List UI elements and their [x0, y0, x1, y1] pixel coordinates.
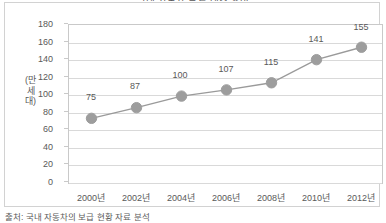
data-point-label: 100	[160, 70, 200, 80]
x-axis-tick-label: 2004년	[158, 191, 204, 204]
chart-frame: (만 세 대) 180 160 140 120 100 80 60 40 20 …	[4, 2, 380, 207]
x-axis-tick-label: 2006년	[203, 191, 249, 204]
y-axis-tick-label: 0	[9, 178, 53, 187]
y-axis-tick-label: 40	[9, 143, 53, 152]
data-point-marker	[311, 54, 321, 64]
data-point-label: 115	[251, 57, 291, 67]
data-point-marker	[356, 42, 366, 52]
data-point-marker	[266, 78, 276, 88]
x-axis-tick-label: 2012년	[338, 191, 384, 204]
data-point-label: 155	[341, 22, 381, 32]
data-point-marker	[176, 91, 186, 101]
data-point-label: 141	[296, 34, 336, 44]
source-note: 출처: 국내 자동차의 보급 현황 자료 분석	[5, 211, 381, 223]
x-axis-tick-label: 2000년	[68, 191, 114, 204]
y-axis-tick-label: 140	[9, 55, 53, 64]
x-axis-tick-label: 2010년	[293, 191, 339, 204]
y-axis-tick-label: 80	[9, 108, 53, 117]
data-point-label: 107	[206, 64, 246, 74]
data-point-marker	[131, 102, 141, 112]
y-axis-tick-label: 180	[9, 20, 53, 29]
data-point-marker	[86, 113, 96, 123]
y-axis-tick-label: 120	[9, 73, 53, 82]
y-axis-tick-label: 100	[9, 90, 53, 99]
data-point-marker	[221, 85, 231, 95]
x-axis-tick-label: 2008년	[248, 191, 294, 204]
data-point-label: 87	[115, 81, 155, 91]
data-series-line	[69, 25, 384, 185]
chart-figure: 국내 자동차 등록 대수 추이 (만 세 대) 180 160 140 120 …	[0, 0, 386, 223]
plot-area	[68, 24, 383, 184]
chart-title: 국내 자동차 등록 대수 추이	[0, 0, 386, 1]
data-point-label: 75	[71, 92, 111, 102]
y-axis-tick-label: 60	[9, 125, 53, 134]
x-axis-tick-label: 2002년	[113, 191, 159, 204]
y-axis-tick-label: 160	[9, 38, 53, 47]
y-axis-tick-label: 20	[9, 160, 53, 169]
